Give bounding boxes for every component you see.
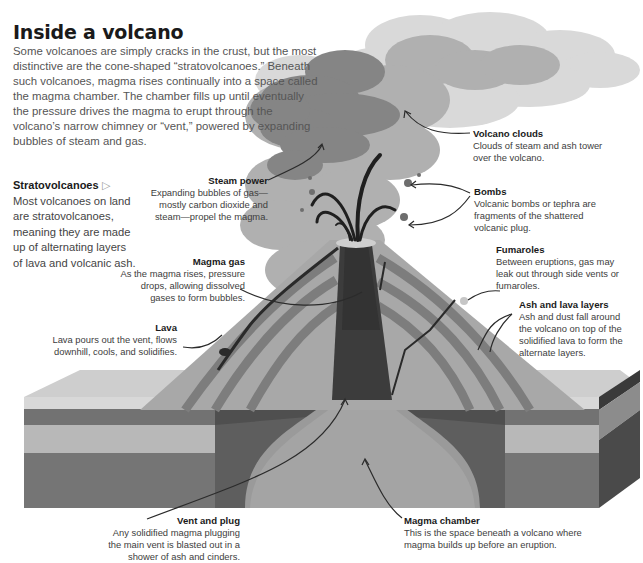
label-lava-text: Lava pours out the vent, flows downhill,…: [52, 334, 177, 357]
label-steam-power-text: Expanding bubbles of gas— mostly carbon …: [151, 187, 268, 222]
label-magma-chamber-text: This is the space beneath a volcano wher…: [404, 527, 582, 550]
label-vent-plug: Vent and plug Any solidified magma plugg…: [100, 515, 240, 563]
stratovolcanoes-heading-text: Stratovolcanoes: [13, 179, 99, 191]
label-vent-plug-text: Any solidified magma plugging the main v…: [108, 527, 240, 562]
label-volcano-clouds-title: Volcano clouds: [473, 128, 603, 140]
label-magma-gas-title: Magma gas: [115, 256, 245, 268]
label-ash-lava-layers-text: Ash and dust fall around the volcano on …: [519, 311, 623, 358]
label-steam-power-title: Steam power: [150, 175, 268, 187]
triangle-right-icon: ▷: [102, 179, 110, 191]
intro-paragraph: Some volcanoes are simply cracks in the …: [13, 44, 323, 149]
label-fumaroles-title: Fumaroles: [496, 244, 621, 256]
label-lava-title: Lava: [52, 322, 177, 334]
label-bombs-text: Volcanic bombs or tephra are fragments o…: [474, 198, 596, 233]
label-ash-lava-layers-title: Ash and lava layers: [519, 299, 629, 311]
label-steam-power: Steam power Expanding bubbles of gas— mo…: [150, 175, 268, 223]
label-fumaroles-text: Between eruptions, gas may leak out thro…: [496, 256, 619, 291]
stratovolcanoes-heading: Stratovolcanoes ▷: [13, 178, 138, 194]
label-fumaroles: Fumaroles Between eruptions, gas may lea…: [496, 244, 621, 292]
label-magma-gas-text: As the magma rises, pressure drops, allo…: [120, 268, 245, 303]
page-title: Inside a volcano: [13, 21, 183, 43]
label-ash-lava-layers: Ash and lava layers Ash and dust fall ar…: [519, 299, 629, 359]
label-volcano-clouds: Volcano clouds Clouds of steam and ash t…: [473, 128, 603, 164]
label-vent-plug-title: Vent and plug: [100, 515, 240, 527]
label-magma-gas: Magma gas As the magma rises, pressure d…: [115, 256, 245, 304]
label-bombs-title: Bombs: [474, 186, 604, 198]
label-magma-chamber-title: Magma chamber: [404, 515, 594, 527]
label-bombs: Bombs Volcanic bombs or tephra are fragm…: [474, 186, 604, 234]
label-magma-chamber: Magma chamber This is the space beneath …: [404, 515, 594, 551]
label-volcano-clouds-text: Clouds of steam and ash tower over the v…: [473, 140, 602, 163]
label-lava: Lava Lava pours out the vent, flows down…: [52, 322, 177, 358]
